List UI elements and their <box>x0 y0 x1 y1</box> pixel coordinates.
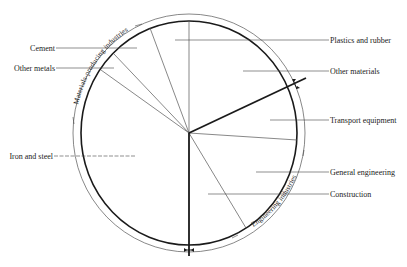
group-label-engineering: Engineering industries <box>250 174 298 229</box>
marker-upper-arrow-a <box>292 79 296 82</box>
sector-wheel-diagram: Materials-producing industries Engineeri… <box>0 0 407 267</box>
marker-lower-arrow-a <box>184 248 187 252</box>
marker-lower-arrow-b <box>191 248 194 252</box>
spoke-transport-boundary <box>189 133 297 140</box>
marker-upper-arrow-b <box>296 86 300 89</box>
label-plastics-rubber: Plastics and rubber <box>330 36 391 45</box>
right-labels: Plastics and rubber Other materials Tran… <box>175 36 397 199</box>
label-cement: Cement <box>30 44 56 53</box>
spoke-construction-boundary <box>189 133 246 228</box>
label-other-materials: Other materials <box>330 67 380 76</box>
label-iron-steel: Iron and steel <box>9 152 53 161</box>
spoke-group-divider-upper <box>189 78 306 133</box>
label-other-metals: Other metals <box>14 64 55 73</box>
group-label-materials: Materials-producing industries <box>72 26 129 106</box>
spoke-iron-steel-boundary <box>101 70 189 133</box>
label-transport-equipment: Transport equipment <box>330 116 397 125</box>
spoke-other-metals-boundary <box>114 54 189 133</box>
divider-markers <box>184 79 300 252</box>
spoke-cement-boundary <box>150 28 189 133</box>
label-construction: Construction <box>330 190 371 199</box>
spokes <box>101 21 306 256</box>
label-general-engineering: General engineering <box>330 168 395 177</box>
